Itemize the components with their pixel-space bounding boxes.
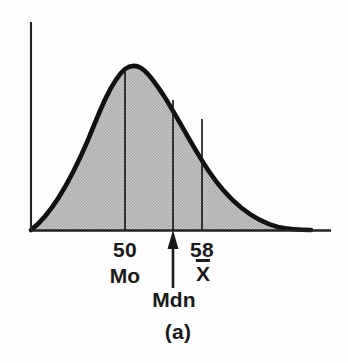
xbar-overbar <box>196 259 210 262</box>
mean-symbol-text: X <box>196 262 210 285</box>
median-arrow-head <box>168 230 179 249</box>
mode-value-label: 50 <box>113 239 137 260</box>
median-name-label: Mdn <box>152 289 196 310</box>
panel-caption: (a) <box>165 321 191 342</box>
mode-name-label: Mo <box>110 265 141 286</box>
distribution-shaded-area <box>31 66 311 230</box>
mean-value-label: 58 <box>190 239 214 260</box>
statistics-figure: 50 Mo 58 X Mdn (a) <box>0 0 348 363</box>
mean-symbol-label: X <box>196 263 210 284</box>
